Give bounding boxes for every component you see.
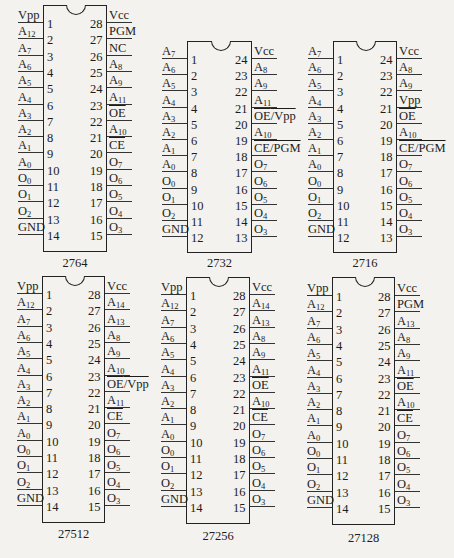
- pin-label: O3: [109, 221, 122, 234]
- pin-number: 2: [191, 70, 197, 83]
- pin-label: A3: [18, 107, 31, 120]
- pin-label: A5: [161, 346, 174, 359]
- pin-number: 17: [235, 167, 248, 180]
- pin-number: 16: [233, 486, 246, 499]
- pin-label: A3: [162, 110, 175, 123]
- chip-part-number: 27128: [324, 531, 404, 546]
- pin-number: 21: [233, 404, 246, 417]
- pin-label: O7: [254, 158, 267, 171]
- pin-label: A13: [252, 314, 270, 327]
- pin-line: [161, 506, 186, 507]
- pin-label: A9: [109, 74, 122, 87]
- pin-number: 1: [191, 54, 197, 67]
- pin-label: A1: [17, 410, 30, 423]
- pin-label: A0: [308, 158, 321, 171]
- pin-number: 23: [233, 372, 246, 385]
- pin-number: 27: [88, 305, 101, 318]
- pin-line: [397, 58, 422, 59]
- pin-label: O6: [109, 172, 122, 185]
- pin-number: 20: [90, 148, 103, 161]
- pin-label: O4: [399, 207, 412, 220]
- pin-number: 4: [47, 67, 53, 80]
- pin-label: A9: [252, 346, 265, 359]
- pin-number: 9: [336, 421, 342, 434]
- pin-label: A0: [162, 158, 175, 171]
- pin-label: O2: [308, 207, 321, 220]
- pin-label: A6: [308, 61, 321, 74]
- pin-number: 26: [233, 323, 246, 336]
- pin-label: GND: [308, 223, 335, 236]
- pin-number: 6: [47, 100, 53, 113]
- pin-label: Vcc: [254, 45, 274, 58]
- pin-label: O3: [254, 223, 267, 236]
- pin-label: A6: [18, 58, 31, 71]
- pin-number: 21: [380, 103, 393, 116]
- pin-number: 26: [90, 51, 103, 64]
- pin-number: 21: [90, 132, 103, 145]
- pin-number: 17: [378, 470, 391, 483]
- pin-number: 3: [47, 51, 53, 64]
- pin-label: CE: [109, 139, 125, 152]
- pin-label: O1: [161, 460, 174, 473]
- chip-part-number: 2716: [325, 256, 405, 271]
- chip-part-number: 2732: [180, 256, 260, 271]
- pin-number: 22: [380, 86, 393, 99]
- pin-number: 10: [336, 438, 349, 451]
- pin-number: 15: [233, 502, 246, 515]
- pin-number: 17: [380, 167, 393, 180]
- pin-label: A0: [307, 429, 320, 442]
- pin-number: 23: [90, 100, 103, 113]
- pin-number: 21: [378, 405, 391, 418]
- pin-number: 2: [46, 305, 52, 318]
- pin-label: A3: [307, 380, 320, 393]
- pin-number: 5: [47, 83, 53, 96]
- pin-line: [107, 55, 132, 56]
- pin-number: 4: [337, 103, 343, 116]
- pin-label: O5: [254, 191, 267, 204]
- pin-number: 12: [191, 232, 204, 245]
- pin-line: [252, 155, 277, 156]
- pin-label: A1: [308, 142, 321, 155]
- pin-number: 15: [88, 501, 101, 514]
- pin-label: O4: [107, 476, 120, 489]
- pin-label: O7: [252, 428, 265, 441]
- pin-line: [107, 22, 132, 23]
- pin-number: 9: [46, 419, 52, 432]
- pin-number: 21: [88, 403, 101, 416]
- pin-number: 12: [46, 468, 59, 481]
- pin-label: O4: [397, 478, 410, 491]
- pin-number: 12: [337, 232, 350, 245]
- pin-number: 8: [47, 132, 53, 145]
- pin-number: 13: [336, 487, 349, 500]
- pin-number: 9: [47, 148, 53, 161]
- pin-number: 13: [190, 486, 203, 499]
- pin-label: A4: [18, 91, 31, 104]
- pin-number: 13: [46, 485, 59, 498]
- pin-label: O0: [161, 444, 174, 457]
- pin-number: 1: [46, 289, 52, 302]
- pin-number: 17: [233, 469, 246, 482]
- pin-number: 24: [380, 54, 393, 67]
- pin-number: 8: [46, 403, 52, 416]
- pin-label: A5: [18, 74, 31, 87]
- pin-label: Vpp: [399, 94, 421, 107]
- pin-number: 19: [380, 135, 393, 148]
- pin-number: 27: [233, 306, 246, 319]
- pin-label: CE: [107, 410, 123, 423]
- pin-number: 16: [378, 487, 391, 500]
- pin-line: [107, 120, 132, 121]
- pin-line: [397, 155, 422, 156]
- pin-number: 1: [190, 290, 196, 303]
- pin-label: A1: [161, 411, 174, 424]
- pin-number: 6: [191, 135, 197, 148]
- pin-label: Vcc: [252, 281, 272, 294]
- pin-label: O4: [109, 205, 122, 218]
- pin-label: A14: [107, 296, 125, 309]
- pin-number: 13: [380, 232, 393, 245]
- pin-number: 24: [378, 356, 391, 369]
- pin-number: 5: [337, 119, 343, 132]
- pin-label: O5: [107, 459, 120, 472]
- pin-number: 14: [380, 216, 393, 229]
- pin-line: [107, 152, 132, 153]
- pin-label: Vpp: [17, 280, 39, 293]
